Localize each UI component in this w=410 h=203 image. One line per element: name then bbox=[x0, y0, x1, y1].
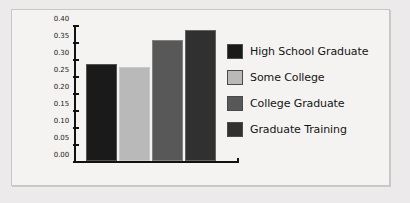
legend-item-label: High School Graduate bbox=[250, 45, 368, 58]
bar[interactable] bbox=[185, 30, 216, 161]
legend-item[interactable]: College Graduate bbox=[227, 90, 387, 116]
chart-legend: High School GraduateSome CollegeCollege … bbox=[227, 38, 387, 142]
y-axis-tick-label: 0.15 bbox=[54, 100, 69, 108]
legend-item[interactable]: Graduate Training bbox=[227, 116, 387, 142]
x-axis-line bbox=[74, 161, 239, 163]
bar-series bbox=[76, 27, 233, 161]
legend-item[interactable]: High School Graduate bbox=[227, 38, 387, 64]
x-axis-endcap bbox=[237, 158, 239, 163]
bar[interactable] bbox=[86, 64, 117, 161]
chart-figure: 0.000.050.100.150.200.250.300.350.40 Hig… bbox=[11, 9, 390, 186]
bar[interactable] bbox=[152, 40, 183, 161]
legend-swatch-icon bbox=[227, 44, 243, 59]
legend-item[interactable]: Some College bbox=[227, 64, 387, 90]
legend-swatch-icon bbox=[227, 122, 243, 137]
legend-item-label: Some College bbox=[250, 71, 325, 84]
y-axis-tick-label: 0.30 bbox=[54, 49, 69, 57]
bar[interactable] bbox=[119, 67, 150, 161]
legend-item-label: Graduate Training bbox=[250, 123, 347, 136]
legend-swatch-icon bbox=[227, 70, 243, 85]
plot-area: 0.000.050.100.150.200.250.300.350.40 bbox=[48, 24, 233, 177]
axes: 0.000.050.100.150.200.250.300.350.40 bbox=[74, 27, 233, 163]
y-axis-tick-label: 0.10 bbox=[54, 117, 69, 125]
y-axis-tick-label: 0.05 bbox=[54, 134, 69, 142]
legend-swatch-icon bbox=[227, 96, 243, 111]
y-axis-tick-label: 0.40 bbox=[54, 15, 69, 23]
legend-item-label: College Graduate bbox=[250, 97, 345, 110]
y-axis-tick: 0.00 bbox=[73, 161, 79, 163]
y-axis-tick-label: 0.25 bbox=[54, 66, 69, 74]
y-axis-tick-label: 0.20 bbox=[54, 83, 69, 91]
y-axis-tick-label: 0.35 bbox=[54, 32, 69, 40]
y-axis-tick-label: 0.00 bbox=[54, 151, 69, 159]
